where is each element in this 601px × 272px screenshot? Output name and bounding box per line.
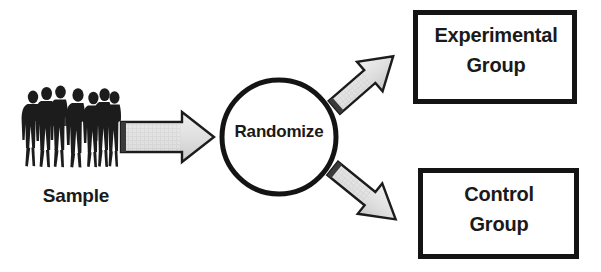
randomize-label: Randomize [219,123,339,141]
sample-label: Sample [14,186,138,206]
people-group-silhouette-icon [22,86,121,168]
experimental-group-label-line2: Group [415,55,577,76]
arrow-randomize-to-control [320,153,407,234]
control-group-label-line2: Group [419,214,579,235]
arrow-sample-to-randomize [121,112,214,162]
control-group-label-line1: Control [464,183,534,205]
experimental-group-label: Experimental Group [415,25,577,76]
experimental-group-label-line1: Experimental [434,24,557,46]
diagram-canvas: Sample Randomize Experimental Group Cont… [0,0,601,272]
control-group-label: Control Group [419,184,579,235]
arrow-randomize-to-experimental [322,41,406,122]
